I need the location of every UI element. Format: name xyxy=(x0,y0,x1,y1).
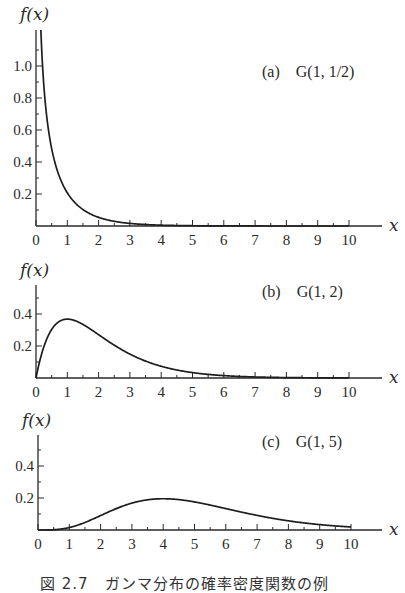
panel-a-y-tick-label: 0.2 xyxy=(13,186,32,202)
panel-a-label: (a) G(1, 1/2) xyxy=(262,63,354,81)
panel-a-density-curve xyxy=(41,30,349,226)
panel-b-density-curve xyxy=(36,319,349,378)
panel-c-x-tick-label: 4 xyxy=(159,536,167,552)
panel-c-x-tick-label: 5 xyxy=(191,536,199,552)
panel-a-y-tick-label: 0.4 xyxy=(13,154,32,170)
panel-a-x-tick-label: 6 xyxy=(220,232,228,248)
panel-a-x-tick-label: 1 xyxy=(64,232,72,248)
panel-c-x-tick-label: 2 xyxy=(97,536,105,552)
panel-c-x-tick-label: 3 xyxy=(128,536,136,552)
panel-b-x-tick-label: 10 xyxy=(342,384,357,400)
panel-c-x-tick-label: 9 xyxy=(316,536,324,552)
panel-c-y-tick-label: 0.4 xyxy=(15,458,34,474)
panel-b-x-tick-label: 7 xyxy=(251,384,259,400)
panel-c-x-tick-label: 6 xyxy=(222,536,230,552)
panel-a-y-tick-label: 1.0 xyxy=(13,58,32,74)
panel-c-x-tick-label: 0 xyxy=(34,536,42,552)
panel-c-x-tick-label: 8 xyxy=(285,536,293,552)
panel-a-x-tick-label: 5 xyxy=(189,232,197,248)
panel-a-y-tick-label: 0.8 xyxy=(13,90,32,106)
panel-b-x-tick-label: 0 xyxy=(32,384,40,400)
panel-c-label: (c) G(1, 5) xyxy=(262,433,342,451)
panel-c-y-tick-label: 0.2 xyxy=(15,490,34,506)
panel-a-x-axis-title: x xyxy=(389,215,399,235)
panel-b-x-axis-title: x xyxy=(389,367,399,387)
panel-c-x-axis-title: x xyxy=(389,519,399,539)
panel-a-x-tick-label: 7 xyxy=(251,232,259,248)
panel-b-label: (b) G(1, 2) xyxy=(262,283,343,301)
panel-a-x-tick-label: 0 xyxy=(32,232,40,248)
panel-b-x-tick-label: 1 xyxy=(64,384,72,400)
panel-a-x-tick-label: 9 xyxy=(314,232,322,248)
panel-c-x-tick-label: 7 xyxy=(253,536,261,552)
panel-a-x-tick-label: 10 xyxy=(342,232,357,248)
panel-c-y-axis-title: f(x) xyxy=(20,410,51,430)
panel-b-x-tick-label: 8 xyxy=(283,384,291,400)
panel-c-x-tick-label: 10 xyxy=(344,536,359,552)
panel-b-x-tick-label: 4 xyxy=(157,384,165,400)
panel-b-y-tick-label: 0.4 xyxy=(13,306,32,322)
panel-b-x-tick-label: 3 xyxy=(126,384,134,400)
panel-c-x-tick-label: 1 xyxy=(66,536,74,552)
panel-b-x-tick-label: 5 xyxy=(189,384,197,400)
panel-b-x-tick-label: 2 xyxy=(95,384,103,400)
panel-a-x-tick-label: 4 xyxy=(157,232,165,248)
panel-a-x-tick-label: 2 xyxy=(95,232,103,248)
panel-b-x-tick-label: 6 xyxy=(220,384,228,400)
panel-a-x-tick-label: 3 xyxy=(126,232,134,248)
panel-b-y-axis-title: f(x) xyxy=(18,260,49,280)
panel-a-y-tick-label: 0.6 xyxy=(13,122,32,138)
panel-b-y-tick-label: 0.2 xyxy=(13,338,32,354)
panel-a-x-tick-label: 8 xyxy=(283,232,291,248)
figure-caption: 図 2.7 ガンマ分布の確率密度関数の例 xyxy=(40,572,329,593)
panel-b-x-tick-label: 9 xyxy=(314,384,322,400)
panel-a-y-axis-title: f(x) xyxy=(18,4,49,24)
